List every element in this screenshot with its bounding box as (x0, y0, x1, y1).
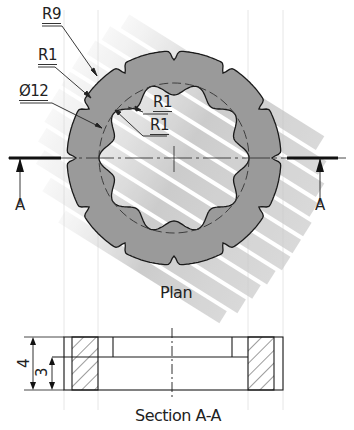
label-inner-lobe-radius-1: R1 (153, 95, 172, 112)
section-hatch-right (248, 337, 274, 390)
label-inner-lobe-radius-2: R1 (150, 118, 169, 135)
section-marker-left: A (15, 198, 25, 213)
label-outer-radius: R9 (42, 7, 61, 24)
section-hatch-left (72, 337, 98, 390)
label-pitch-diameter: Ø12 (19, 84, 48, 101)
section-view (24, 328, 283, 400)
dimension-lower-height: 3 (35, 368, 50, 377)
dimension-overall-height: 4 (17, 359, 32, 368)
section-marker-right: A (315, 198, 325, 213)
section-caption: Section A-A (135, 408, 221, 424)
label-outer-notch-radius: R1 (38, 48, 57, 65)
plan-caption: Plan (160, 285, 192, 301)
